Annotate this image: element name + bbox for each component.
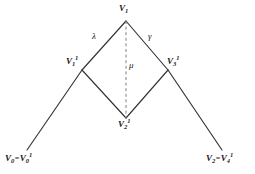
vertex-label-v2-1-sup: 1 xyxy=(127,117,130,124)
vertex-label-v2-sub: 2 xyxy=(212,157,215,164)
diagram-canvas xyxy=(0,0,255,174)
vertex-label-v0-1-sup: 1 xyxy=(29,151,32,158)
vertex-label-v2-1-sub: 2 xyxy=(124,123,127,130)
edge-group-solid xyxy=(27,21,222,150)
vertex-label-v0-equality: V0=V01 xyxy=(5,154,32,163)
vertex-label-v4-1-sup: 1 xyxy=(230,151,233,158)
edge-v1_1-to-v0 xyxy=(27,70,82,150)
diagram-figure: V1 V11 V31 V21 V0=V01 V2=V41 λ γ μ xyxy=(0,0,255,174)
vertex-label-v1-1-sub: 1 xyxy=(72,60,75,67)
vertex-label-v0-1-base: V xyxy=(20,153,26,163)
edge-label-gamma: γ xyxy=(148,32,152,41)
vertex-label-v1-sub: 1 xyxy=(125,7,128,14)
vertex-label-v0-1-sub: 0 xyxy=(26,157,29,164)
vertex-label-v3-1: V31 xyxy=(167,57,180,66)
vertex-label-v0-sub: 0 xyxy=(11,157,14,164)
edge-v3_1-to-v2 xyxy=(168,70,222,150)
vertex-label-v1-1: V11 xyxy=(66,57,78,66)
vertex-label-v2-equality: V2=V41 xyxy=(206,154,233,163)
edge-v3_1-to-v2_1 xyxy=(126,70,168,118)
vertex-label-v3-1-sub: 3 xyxy=(173,60,176,67)
edge-label-mu: μ xyxy=(129,61,134,70)
vertex-label-v1: V1 xyxy=(119,4,128,13)
edge-label-lambda: λ xyxy=(92,32,96,41)
edge-v1_1-to-v2_1 xyxy=(82,70,126,118)
vertex-label-v4-1-base: V xyxy=(221,153,227,163)
vertex-label-v4-1-sub: 4 xyxy=(227,157,230,164)
edge-v1-to-v1_1 xyxy=(82,21,126,70)
vertex-label-v1-1-sup: 1 xyxy=(75,54,78,61)
vertex-label-v2-1: V21 xyxy=(118,120,131,129)
vertex-label-v3-1-sup: 1 xyxy=(176,54,179,61)
